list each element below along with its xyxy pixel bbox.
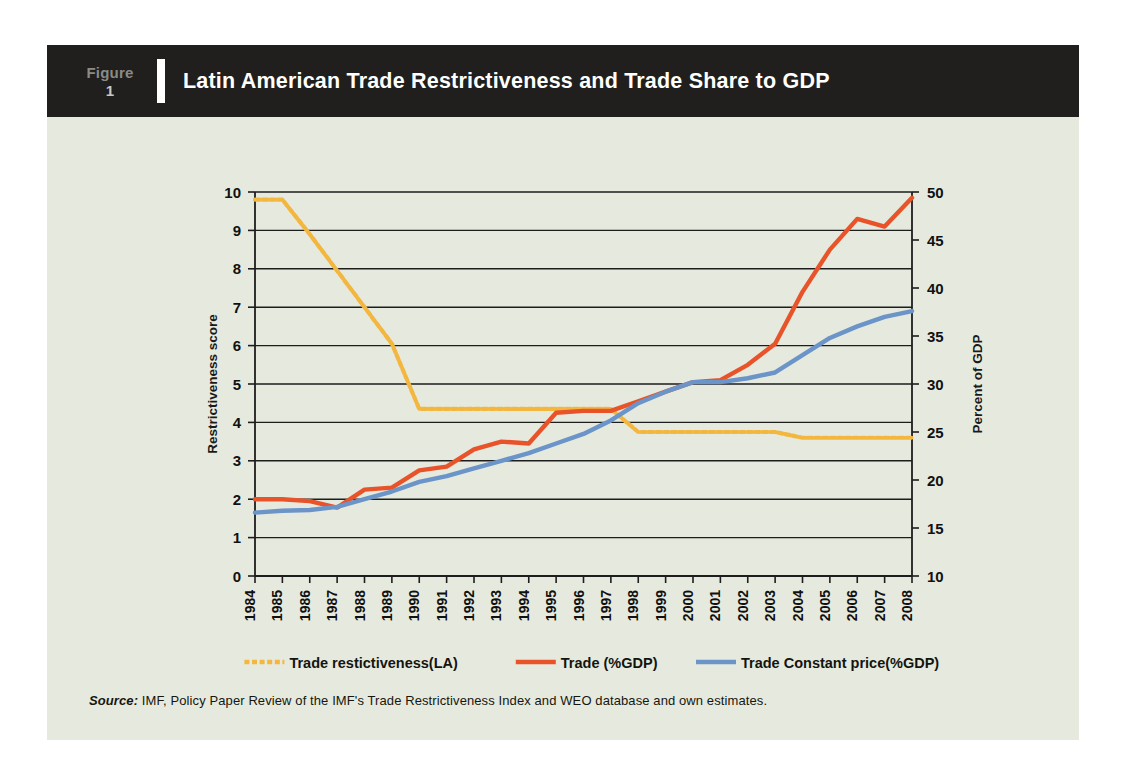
series-line-0 <box>255 200 912 438</box>
x-axis-year-label: 1993 <box>488 590 504 621</box>
left-axis-tick-label: 10 <box>224 184 241 201</box>
left-axis-tick-label: 2 <box>233 491 241 508</box>
figure-title: Latin American Trade Restrictiveness and… <box>183 69 830 94</box>
x-axis-year-label: 1997 <box>598 590 614 621</box>
left-axis-tick-label: 6 <box>233 337 241 354</box>
header-divider-bar <box>157 59 165 103</box>
figure-number-tag: Figure 1 <box>67 64 153 99</box>
right-axis-tick-label: 25 <box>927 424 944 441</box>
legend-label-0: Trade restictiveness(LA) <box>289 655 458 671</box>
x-axis-year-label: 1988 <box>352 590 368 621</box>
figure-tag-number: 1 <box>67 82 153 99</box>
source-note: Source: IMF, Policy Paper Review of the … <box>89 693 767 708</box>
x-axis-year-label: 2007 <box>872 590 888 621</box>
right-axis-tick-label: 35 <box>927 328 944 345</box>
left-axis-tick-label: 9 <box>233 222 241 239</box>
right-axis-tick-label: 50 <box>927 184 944 201</box>
left-axis-title: Restrictiveness score <box>205 314 220 454</box>
figure-header-bar: Figure 1 Latin American Trade Restrictiv… <box>47 45 1079 117</box>
left-axis-tick-label: 3 <box>233 452 241 469</box>
x-axis-year-label: 1985 <box>269 590 285 621</box>
x-axis-year-label: 2008 <box>899 590 915 621</box>
legend-label-2: Trade Constant price(%GDP) <box>741 655 939 671</box>
right-axis-tick-label: 10 <box>927 568 944 585</box>
x-axis-year-label: 1991 <box>434 590 450 621</box>
x-axis-year-label: 2006 <box>844 590 860 621</box>
x-axis-year-label: 2000 <box>680 590 696 621</box>
source-text: IMF, Policy Paper Review of the IMF's Tr… <box>138 693 767 708</box>
right-axis-title: Percent of GDP <box>970 334 985 433</box>
figure-panel: Figure 1 Latin American Trade Restrictiv… <box>47 45 1079 740</box>
left-axis-tick-label: 1 <box>233 529 241 546</box>
left-axis-tick-label: 0 <box>233 568 241 585</box>
x-axis-year-label: 2003 <box>762 590 778 621</box>
x-axis-year-label: 1987 <box>324 590 340 621</box>
left-axis-tick-label: 5 <box>233 376 241 393</box>
right-axis-tick-label: 15 <box>927 520 944 537</box>
x-axis-year-label: 2004 <box>790 590 806 621</box>
source-label: Source: <box>89 693 138 708</box>
line-chart: 0123456789101015202530354045501984198519… <box>47 117 1079 677</box>
x-axis-year-label: 2001 <box>707 590 723 621</box>
x-axis-year-label: 1986 <box>297 590 313 621</box>
left-axis-tick-label: 8 <box>233 260 241 277</box>
right-axis-tick-label: 30 <box>927 376 944 393</box>
x-axis-year-label: 1999 <box>653 590 669 621</box>
x-axis-year-label: 1996 <box>571 590 587 621</box>
right-axis-tick-label: 20 <box>927 472 944 489</box>
legend-label-1: Trade (%GDP) <box>561 655 658 671</box>
x-axis-year-label: 1995 <box>543 590 559 621</box>
right-axis-tick-label: 40 <box>927 280 944 297</box>
x-axis-year-label: 1994 <box>516 590 532 621</box>
x-axis-year-label: 1984 <box>242 590 258 621</box>
x-axis-year-label: 1992 <box>461 590 477 621</box>
chart-area: 0123456789101015202530354045501984198519… <box>47 117 1079 677</box>
right-axis-tick-label: 45 <box>927 232 944 249</box>
x-axis-year-label: 1998 <box>625 590 641 621</box>
x-axis-year-label: 1989 <box>379 590 395 621</box>
x-axis-year-label: 1990 <box>406 590 422 621</box>
left-axis-tick-label: 7 <box>233 299 241 316</box>
figure-tag-word: Figure <box>67 64 153 81</box>
left-axis-tick-label: 4 <box>233 414 242 431</box>
x-axis-year-label: 2002 <box>735 590 751 621</box>
screenshot-root: Figure 1 Latin American Trade Restrictiv… <box>0 0 1127 777</box>
x-axis-year-label: 2005 <box>817 590 833 621</box>
